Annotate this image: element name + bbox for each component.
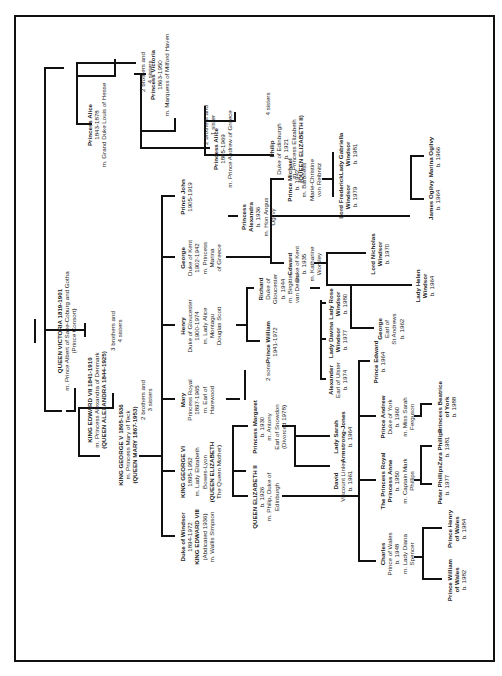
connector-line: [161, 470, 175, 472]
person-text-line: 1843-1878: [93, 83, 100, 168]
person-text-line: Prince William: [446, 559, 453, 601]
person-text-line: Gloucester: [271, 274, 278, 304]
connector-line: [410, 155, 424, 157]
person-text-line: Windsor: [421, 269, 428, 302]
person-node-zara: Zara Phillipsb. 1981: [436, 429, 450, 466]
person-text-line: b. 1942: [293, 158, 300, 201]
person-node-william-w: Prince Williamof Walesb. 1982: [446, 559, 468, 601]
connector-line: [294, 465, 330, 467]
person-text-line: Princess Anne: [386, 452, 393, 509]
connector-line: [44, 67, 46, 412]
family-tree-diagram: QUEEN VICTORIA 1819-1901m. Prince Albert…: [14, 15, 495, 662]
person-node-peter: Peter Phillipsb. 1977: [436, 465, 450, 504]
person-text-line: Marie-Christine: [308, 158, 315, 201]
person-text-line: The Princess Royal: [379, 452, 386, 509]
person-text-line: 4 sisters: [116, 311, 123, 351]
person-text-line: b. 1981: [443, 429, 450, 466]
person-text-line: (QUEEN ELIZABETH: [208, 442, 215, 503]
person-text-line: m. Lady Diana: [401, 532, 408, 575]
person-text-line: Charles: [379, 532, 386, 575]
person-text-line: Duke of Kent: [186, 240, 193, 276]
person-text-line: (Prince Consort): [70, 271, 77, 390]
person-text-line: m. Earl of: [201, 379, 208, 420]
person-text-line: Duke of: [264, 274, 271, 304]
person-node-william-g: Prince William1941-1972: [264, 321, 278, 363]
person-text-line: Windsor: [376, 233, 383, 274]
person-text-line: Duke of Kent: [293, 246, 300, 282]
person-text-line: James Ogilvy: [427, 180, 434, 220]
person-text-line: Princess Royal: [186, 379, 193, 420]
connector-line: [139, 455, 161, 457]
person-node-anne: The Princess RoyalPrincess Anneb. 1950m.…: [379, 452, 415, 509]
connector-line: [410, 155, 412, 200]
connector-line: [76, 75, 116, 77]
person-text-line: m. Marquess of Milford Haven: [163, 34, 170, 117]
person-text-line: Earl of Ulster: [334, 362, 341, 398]
person-text-line: Edward: [286, 246, 293, 282]
person-node-george-sa: GeorgeEarl ofSt Andrewsb. 1962: [376, 313, 405, 344]
person-text-line: Lady Helen: [414, 269, 421, 302]
person-text-line: (QUEEN MARY 1867-1953): [131, 404, 138, 486]
person-text-line: b. 1988: [450, 381, 457, 433]
person-text-line: Mary: [179, 379, 186, 420]
person-text-line: b. 1935: [300, 246, 307, 282]
person-text-line: Philip: [268, 115, 275, 183]
person-text-line: m. Captain Mark: [401, 452, 408, 509]
connector-line: [228, 215, 238, 217]
person-text-line: QUEEN ELIZABETH II: [251, 465, 258, 529]
connector-line: [420, 403, 432, 405]
person-text-line: m. Princess Alexandra of Denmark: [93, 351, 100, 449]
person-text-line: 2 brothers and: [202, 105, 209, 145]
connector-line: [326, 284, 412, 286]
person-text-line: George: [179, 240, 186, 276]
person-text-line: Prince of Wales: [386, 532, 393, 575]
person-text-line: Windsor: [334, 322, 341, 358]
connector-line: [44, 410, 62, 412]
person-node-helen: Lady HelenWindsorb. 1964: [414, 269, 436, 302]
connector-line: [232, 425, 248, 427]
person-text-line: b. 1960: [393, 395, 400, 438]
person-text-line: Duke of Windsor: [179, 509, 186, 565]
person-text-line: 1895-1952: [186, 442, 193, 503]
person-node-davina: Lady DavinaWindsorb. 1977: [327, 322, 349, 358]
person-node-gabriella: Lady GabriellaWindsorb. 1981: [337, 133, 359, 176]
connector-line: [420, 445, 432, 447]
person-text-line: 1897-1965: [193, 379, 200, 420]
connector-line: [350, 284, 352, 329]
person-text-line: St Andrews: [390, 313, 397, 344]
person-text-line: Prince Edward: [372, 341, 379, 384]
connector-line: [414, 556, 422, 558]
person-text-line: Windsor: [344, 175, 351, 218]
connector-line: [332, 152, 334, 197]
person-text-line: Peter Phillips: [436, 465, 443, 504]
person-node-edward-p: Prince Edwardb. 1964: [372, 341, 386, 384]
person-text-line: Princess Beatrice: [436, 381, 443, 433]
connector-line: [84, 323, 86, 337]
person-node-henry: HenryDuke of Gloucester1900-1974m. Lady …: [179, 300, 222, 353]
person-node-david: DavidViscount Linleyb. 1961: [332, 460, 354, 502]
connector-line: [410, 198, 424, 200]
person-text-line: m. Miss Sarah: [401, 395, 408, 438]
person-text-line: Earl of Snowdon: [273, 400, 280, 454]
person-text-line: b. 1944: [279, 274, 286, 304]
person-node-victoria: QUEEN VICTORIA 1819-1901m. Prince Albert…: [56, 271, 78, 390]
person-text-line: David: [332, 460, 339, 502]
person-text-line: Lord Nicholas: [369, 233, 376, 274]
connector-line: [326, 252, 328, 286]
person-node-windsor: Duke of Windsor1894-1972KING EDWARD VIII…: [179, 509, 215, 565]
person-text-line: Spencer: [408, 532, 415, 575]
person-text-line: Prince Andrew: [379, 395, 386, 438]
person-text-line: 2 brothers and: [139, 52, 146, 92]
connector-line: [422, 527, 442, 529]
connector-line: [420, 445, 422, 485]
person-text-line: 1905-1919: [186, 179, 193, 214]
person-text-line: Alexander: [327, 362, 334, 398]
person-text-line: Princess Victoria: [149, 34, 156, 117]
person-text-line: 1941-1972: [271, 321, 278, 363]
connector-line: [358, 362, 360, 562]
person-text-line: KING GEORGE VI: [179, 442, 186, 503]
person-text-line: Prince Henry: [446, 510, 453, 548]
person-text-line: b. 1982: [460, 559, 467, 601]
person-text-line: b. 1962: [398, 313, 405, 344]
person-node-john: Prince John1905-1919: [179, 179, 193, 214]
